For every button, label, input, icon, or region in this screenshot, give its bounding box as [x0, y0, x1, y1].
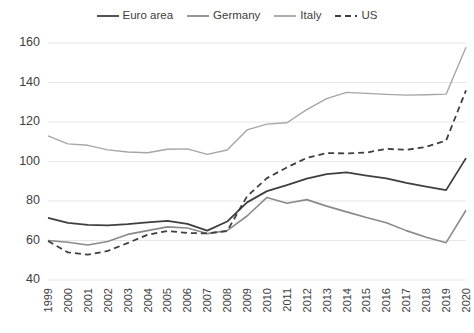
x-axis-tick-label: 2016	[380, 288, 392, 312]
x-axis-tick-label: 2015	[360, 288, 372, 312]
x-axis-tick-label: 2002	[102, 288, 114, 312]
x-axis-tick-label: 2013	[321, 288, 333, 312]
y-axis-tick-label: 100	[19, 154, 40, 168]
x-axis-tick-label: 2012	[301, 288, 313, 312]
x-axis-tick-label: 2019	[440, 288, 452, 312]
x-axis-tick-label: 2006	[181, 288, 193, 312]
chart-container: Euro areaGermanyItalyUS 4060801001201401…	[0, 0, 474, 333]
x-axis-tick-label: 2003	[122, 288, 134, 312]
y-axis-tick-label: 120	[19, 114, 40, 128]
series-line-germany	[48, 197, 466, 245]
x-axis-tick-label: 2018	[420, 288, 432, 312]
x-axis-tick-label: 2005	[161, 288, 173, 312]
y-axis-tick-label: 80	[26, 193, 40, 207]
x-axis-tick-label: 2011	[281, 288, 293, 312]
y-axis-tick-labels: 406080100120140160	[19, 35, 40, 286]
x-axis-tick-label: 2001	[82, 288, 94, 312]
gridlines	[48, 43, 466, 280]
x-axis-tick-label: 2017	[400, 288, 412, 312]
x-axis-tick-label: 2010	[261, 288, 273, 312]
x-axis-tick-label: 2020	[460, 288, 472, 312]
series-line-italy	[48, 47, 466, 154]
y-axis-tick-label: 60	[26, 233, 40, 247]
y-axis-tick-label: 140	[19, 75, 40, 89]
x-axis-tick-label: 2000	[62, 288, 74, 312]
series-line-euro-area	[48, 158, 466, 230]
line-chart-svg: 406080100120140160 199920002001200220032…	[0, 0, 474, 333]
x-axis-tick-labels: 1999200020012002200320042005200620072008…	[42, 288, 472, 312]
y-axis-tick-label: 160	[19, 35, 40, 49]
x-axis-tick-label: 2004	[142, 288, 154, 312]
data-series-group	[48, 47, 466, 254]
x-axis-tick-label: 2008	[221, 288, 233, 312]
x-axis-tick-label: 2009	[241, 288, 253, 312]
x-axis-tick-label: 2014	[341, 288, 353, 312]
x-axis-tick-label: 2007	[201, 288, 213, 312]
plot-area: 406080100120140160 199920002001200220032…	[0, 0, 474, 333]
y-axis-tick-label: 40	[26, 272, 40, 286]
x-axis-tick-label: 1999	[42, 288, 54, 312]
